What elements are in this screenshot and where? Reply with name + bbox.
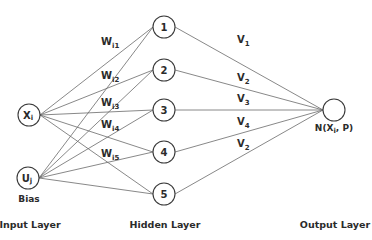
hidden-layer-label: Hidden Layer xyxy=(130,219,201,230)
edge-x-h2 xyxy=(40,70,153,115)
weight-label-w-i1: Wi1 xyxy=(101,36,119,50)
output-label-pre: N(X xyxy=(315,123,334,133)
output-node xyxy=(323,99,345,121)
weight-label-v2-a: V2 xyxy=(237,72,250,86)
weight-label-v2-b: V2 xyxy=(237,138,250,152)
edge-u-h2 xyxy=(39,70,153,178)
hidden-node-3: 3 xyxy=(153,99,175,121)
hidden-node-3-label: 3 xyxy=(161,105,168,116)
hidden-node-2: 2 xyxy=(153,59,175,81)
input-node-u-sub: j xyxy=(29,177,32,185)
hidden-node-2-label: 2 xyxy=(161,65,168,76)
output-layer-label: Output Layer xyxy=(300,219,371,230)
input-node-x-sub: i xyxy=(31,114,33,122)
weight-label-v4: V4 xyxy=(237,116,250,130)
input-node-u-main: U xyxy=(22,173,30,184)
edge-u-h5 xyxy=(39,178,153,194)
weight-label-w-i3: Wi3 xyxy=(101,97,119,111)
output-node-label: N(Xi, P) xyxy=(315,123,353,135)
hidden-node-5: 5 xyxy=(153,183,175,205)
hidden-node-1: 1 xyxy=(153,16,175,38)
neural-network-diagram: Xi Uj 1 2 3 4 5 N( xyxy=(0,0,372,240)
edge-x-h3 xyxy=(40,110,153,115)
hidden-node-4-label: 4 xyxy=(161,147,168,158)
input-node-x: Xi xyxy=(18,104,40,126)
bias-label: Bias xyxy=(18,194,39,204)
input-node-u: Uj xyxy=(17,167,39,189)
hidden-layer-nodes: 1 2 3 4 5 xyxy=(153,16,175,205)
weight-label-v3: V3 xyxy=(237,93,250,107)
output-weight-labels: V1 V2 V3 V4 V2 xyxy=(237,34,250,152)
hidden-node-1-label: 1 xyxy=(161,22,168,33)
input-layer-label: Input Layer xyxy=(0,219,61,230)
hidden-node-4: 4 xyxy=(153,141,175,163)
output-label-post: , P) xyxy=(336,123,353,133)
weight-label-w-i4: Wi4 xyxy=(101,119,119,133)
input-hidden-edges xyxy=(39,27,153,194)
weight-label-w-i2: Wi2 xyxy=(101,70,119,84)
hidden-output-edges xyxy=(175,27,323,194)
weight-label-v1: V1 xyxy=(237,34,250,48)
hidden-node-5-label: 5 xyxy=(161,189,168,200)
